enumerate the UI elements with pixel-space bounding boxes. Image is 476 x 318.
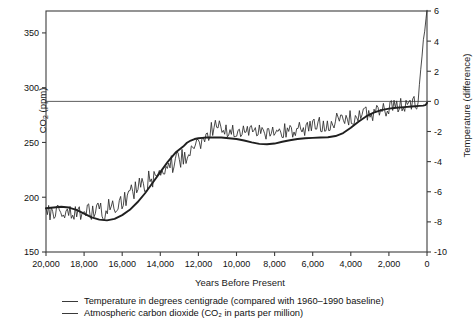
y-axis-left-label-subscript: 2 (42, 115, 49, 119)
y-axis-left-label-text: CO (37, 119, 48, 133)
svg-text:4: 4 (434, 37, 439, 47)
svg-text:350: 350 (24, 28, 39, 38)
svg-text:16,000: 16,000 (108, 259, 136, 269)
svg-text:12,000: 12,000 (185, 259, 213, 269)
svg-text:0: 0 (424, 259, 429, 269)
svg-text:-6: -6 (434, 187, 442, 197)
svg-text:6: 6 (434, 6, 439, 16)
svg-text:-10: -10 (434, 247, 447, 257)
x-axis-label: Years Before Present (150, 277, 330, 288)
svg-text:10,000: 10,000 (223, 259, 251, 269)
svg-text:8,000: 8,000 (263, 259, 286, 269)
svg-text:18,000: 18,000 (70, 259, 98, 269)
y-axis-left-label-units: (ppm) (37, 88, 48, 115)
legend-item-temperature: Temperature in degrees centigrade (compa… (62, 296, 384, 306)
svg-text:-4: -4 (434, 157, 442, 167)
legend-item-co2: Atmospheric carbon dioxide (CO₂ in parts… (62, 308, 303, 318)
svg-text:200: 200 (24, 193, 39, 203)
svg-text:2,000: 2,000 (378, 259, 401, 269)
svg-text:150: 150 (24, 247, 39, 257)
svg-text:0: 0 (434, 97, 439, 107)
svg-text:6,000: 6,000 (301, 259, 324, 269)
svg-text:14,000: 14,000 (147, 259, 175, 269)
legend-item-temperature-label: Temperature in degrees centigrade (compa… (84, 296, 384, 306)
svg-text:4,000: 4,000 (340, 259, 363, 269)
y-axis-right-label: Temperature (difference) (461, 36, 472, 176)
legend-line-icon (62, 301, 78, 302)
svg-text:2: 2 (434, 67, 439, 77)
svg-text:-2: -2 (434, 127, 442, 137)
legend-line-icon (62, 313, 78, 314)
y-axis-left-label: CO2 (ppm) (37, 65, 50, 155)
legend-item-co2-label: Atmospheric carbon dioxide (CO₂ in parts… (84, 308, 303, 318)
svg-text:20,000: 20,000 (32, 259, 60, 269)
svg-text:-8: -8 (434, 217, 442, 227)
